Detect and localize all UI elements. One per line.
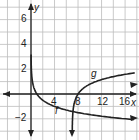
g-label: g [91, 68, 97, 79]
y-tick-6: 6 [21, 13, 27, 24]
graph: y x 6 4 2 −2 4 8 12 16 f g [0, 0, 139, 140]
x-tick-12: 12 [97, 96, 109, 107]
coordinate-plane: y x 6 4 2 −2 4 8 12 16 f g [0, 0, 139, 140]
y-axis-label: y [33, 2, 40, 13]
y-tick-neg2: −2 [15, 112, 27, 123]
g-down-arrow-icon [69, 130, 75, 137]
x-axis-label: x [130, 97, 137, 108]
x-axis [3, 91, 137, 97]
x-tick-16: 16 [119, 96, 131, 107]
y-tick-2: 2 [21, 63, 27, 74]
curve-f [31, 54, 134, 119]
y-tick-4: 4 [21, 38, 27, 49]
x-tick-8: 8 [75, 96, 81, 107]
